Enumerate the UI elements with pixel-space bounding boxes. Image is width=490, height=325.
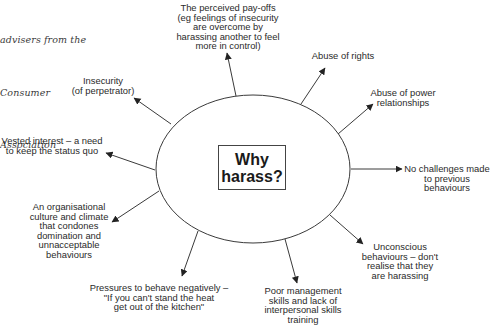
center-title: Why harass? (221, 151, 282, 185)
reason-label-unconscious: Unconscious behaviours – don't realise t… (362, 242, 438, 280)
reason-label-no-challenges: No challenges made to previous behaviour… (404, 164, 489, 193)
reason-label-payoffs: The perceived pay-offs (eg feelings of i… (176, 3, 279, 51)
reason-label-abuse-rights: Abuse of rights (312, 51, 375, 61)
arrow-poor-management (285, 239, 297, 283)
reason-label-vested-interest: Vested interest – a need to keep the sta… (1, 136, 102, 155)
arrow-pressures (182, 231, 198, 276)
why-harass-box: Why harass? (218, 145, 286, 190)
reason-label-organisational: An organisational culture and climate th… (30, 202, 109, 260)
arrow-payoffs (227, 53, 236, 96)
arrow-unconscious (330, 215, 363, 244)
arrow-vested-interest (106, 153, 155, 170)
reason-label-abuse-power: Abuse of power relationships (370, 88, 435, 107)
reason-label-poor-management: Poor management skills and lack of inter… (264, 286, 341, 324)
reason-label-insecurity: Insecurity (of perpetrator) (72, 76, 135, 95)
reason-label-pressures: Pressures to behave negatively – "If you… (90, 283, 229, 312)
arrow-organisational (112, 191, 159, 222)
arrow-abuse-rights (301, 68, 325, 104)
arrow-abuse-power (338, 104, 373, 134)
arrow-insecurity (134, 98, 171, 124)
